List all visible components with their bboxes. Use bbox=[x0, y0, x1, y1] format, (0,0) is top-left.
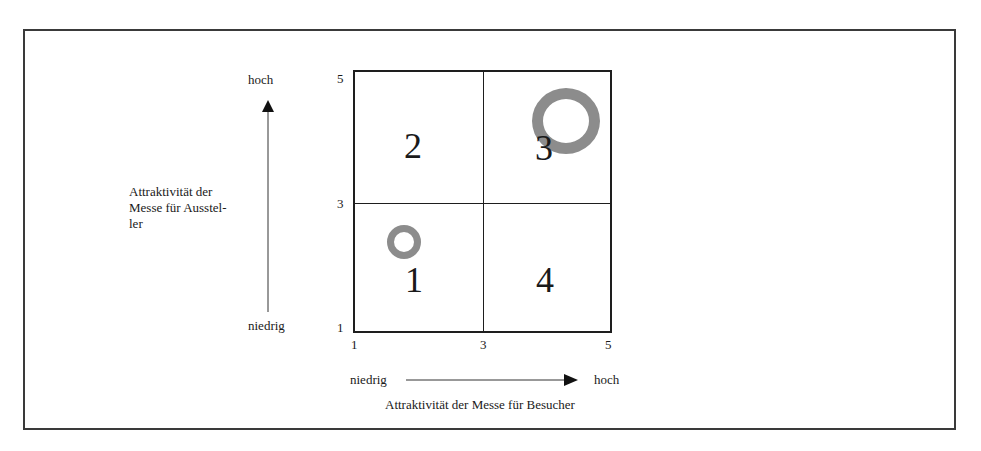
y-tick-1: 1 bbox=[337, 320, 344, 336]
y-title-line-1: Attraktivität der bbox=[129, 184, 259, 200]
x-divider-line bbox=[483, 70, 484, 333]
quadrant-3-label: 3 bbox=[535, 130, 553, 166]
x-tick-3: 3 bbox=[480, 337, 487, 353]
x-tick-5: 5 bbox=[605, 337, 612, 353]
y-axis-high-label: hoch bbox=[248, 72, 273, 88]
x-axis-high-label: hoch bbox=[594, 372, 619, 388]
y-axis-title: Attraktivität der Messe für Ausstel- ler bbox=[129, 184, 259, 232]
quadrant-1-label: 1 bbox=[405, 262, 423, 298]
quadrant-4-label: 4 bbox=[536, 262, 554, 298]
y-title-line-3: ler bbox=[129, 216, 259, 232]
y-tick-3: 3 bbox=[337, 196, 344, 212]
small-ring-marker bbox=[387, 225, 421, 259]
y-divider-line bbox=[353, 203, 612, 204]
x-axis-title: Attraktivität der Messe für Besucher bbox=[385, 397, 575, 413]
quadrant-2-label: 2 bbox=[404, 128, 422, 164]
y-tick-5: 5 bbox=[337, 71, 344, 87]
y-axis-arrow-icon bbox=[258, 96, 278, 314]
x-axis-low-label: niedrig bbox=[350, 372, 387, 388]
x-axis-arrow-icon bbox=[404, 372, 580, 388]
x-tick-1: 1 bbox=[351, 337, 358, 353]
y-title-line-2: Messe für Ausstel- bbox=[129, 200, 259, 216]
y-axis-low-label: niedrig bbox=[248, 318, 285, 334]
